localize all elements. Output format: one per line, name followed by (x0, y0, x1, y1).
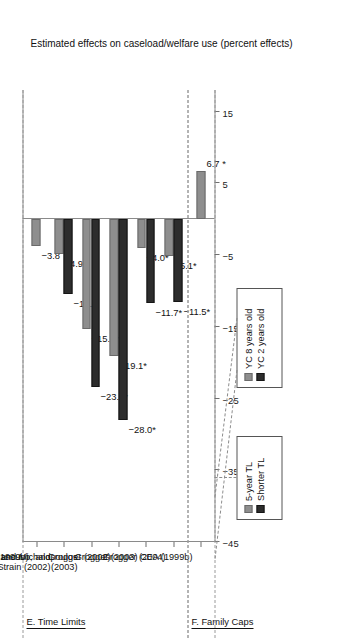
legend-label: Shorter TL (255, 458, 265, 501)
category-axis-tick (36, 542, 37, 547)
legend-label: YC 8 years old (243, 309, 253, 369)
youngest-child-legend: YC 8 years old YC 2 years old (236, 288, 282, 388)
category-axis-tick (91, 542, 92, 547)
legend-swatch-dark-icon (256, 373, 264, 381)
value-axis-tick-label: −25 (222, 395, 238, 406)
legend-row: Shorter TL (255, 443, 265, 513)
value-axis-tick-label: 5 (222, 179, 227, 190)
legend-swatch-light-icon (244, 373, 252, 381)
category-label: CEA (1999b) (139, 552, 192, 562)
bar-value-label: −11.7* (155, 307, 182, 318)
bar (173, 219, 182, 302)
bar (31, 219, 40, 246)
category-axis-tick (145, 542, 146, 547)
value-axis-tick-label: −5 (222, 251, 233, 262)
legend-swatch-dark-icon (256, 505, 264, 513)
figure-canvas: 155−5−15−25−35−45 −3.8−4.9−10.5−15.3*−23… (0, 0, 345, 638)
category-axis-tick (118, 542, 119, 547)
legend-row: YC 8 years old (243, 295, 253, 381)
time-limit-legend: 5-year TL Shorter TL (236, 436, 282, 520)
category-axis-tick (173, 542, 174, 547)
bar-value-label: −28.0* (128, 424, 155, 435)
value-axis-tick-label: −45 (222, 538, 238, 549)
bar (54, 219, 63, 254)
section-separator (22, 90, 23, 638)
bar (196, 171, 205, 219)
bar (164, 219, 173, 256)
legend-swatch-light-icon (244, 505, 252, 513)
section-label: E. Time Limits (26, 616, 85, 629)
rotated-chart-area: 155−5−15−25−35−45 −3.8−4.9−10.5−15.3*−23… (0, 0, 345, 638)
bar (118, 219, 127, 420)
legend-label: 5-year TL (243, 462, 253, 501)
bar (82, 219, 91, 329)
category-axis-tick (200, 542, 201, 547)
bar (91, 219, 100, 387)
legend-label: YC 2 years old (255, 309, 265, 369)
section-separator (187, 90, 188, 638)
category-axis-tick (63, 542, 64, 547)
value-axis-title: Estimated effects on caseload/welfare us… (30, 38, 292, 49)
bar (137, 219, 146, 248)
legend-row: YC 2 years old (255, 295, 265, 381)
legend-row: 5-year TL (243, 443, 253, 513)
value-axis-tick-label: 15 (222, 108, 233, 119)
bar (63, 219, 72, 294)
section-label: F. Family Caps (191, 616, 253, 629)
bar (146, 219, 155, 303)
bar (109, 219, 118, 356)
